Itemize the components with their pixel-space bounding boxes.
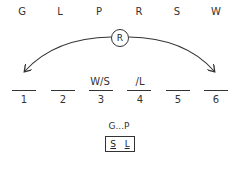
letter-s: S [167, 6, 187, 17]
slot-2-line [51, 90, 75, 91]
slot-2-number: 2 [53, 94, 73, 105]
slot-5-number: 5 [168, 94, 188, 105]
slot-1-line [12, 90, 36, 91]
slot-3-number: 3 [91, 94, 111, 105]
arc-left [25, 37, 111, 71]
slot-4-line [127, 90, 151, 91]
letter-r: R [129, 6, 149, 17]
slot-5-line [166, 90, 190, 91]
letter-l: L [50, 6, 70, 17]
r-circle-label: R [111, 29, 129, 47]
slot-4-annotation: /L [125, 76, 155, 87]
letter-g: G [12, 6, 32, 17]
slot-1-number: 1 [14, 94, 34, 105]
block-letter-l: L [125, 139, 130, 149]
slot-4-number: 4 [130, 94, 150, 105]
slot-3-annotation: W/S [85, 76, 115, 87]
letter-w: W [206, 6, 226, 17]
slot-3-line [89, 90, 113, 91]
sequence-rule: G...P [98, 121, 140, 131]
arc-right [129, 37, 214, 71]
slot-6-line [204, 90, 228, 91]
block-letter-s: S [110, 139, 116, 149]
slot-6-number: 6 [206, 94, 226, 105]
block-rule: S L [105, 136, 135, 152]
letter-p: P [89, 6, 109, 17]
